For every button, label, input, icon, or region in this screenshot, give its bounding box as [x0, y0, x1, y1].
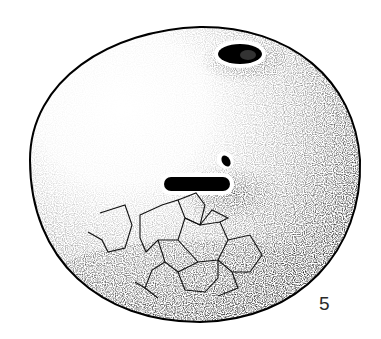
figure-number-label: 5	[319, 293, 330, 315]
specimen-illustration	[0, 0, 381, 339]
upper-pore-icon	[214, 40, 266, 68]
grain-body	[0, 0, 381, 339]
central-colpus-icon	[160, 173, 234, 195]
